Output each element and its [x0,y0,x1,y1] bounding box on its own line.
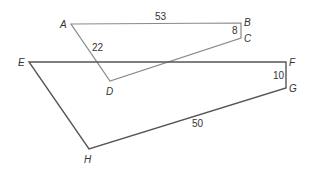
side-lengths: 53 8 22 10 50 [92,11,285,129]
side-length-gh: 50 [192,118,204,129]
vertex-label-h: H [84,154,92,165]
vertex-label-g: G [289,83,297,94]
vertex-label-f: F [289,57,296,68]
side-length-ab: 53 [155,11,167,22]
quadrilateral-efgh [29,62,286,149]
vertex-label-e: E [18,57,25,68]
vertex-label-a: A [59,19,67,30]
vertex-labels-abcd: A B C D [59,17,252,97]
side-length-bc: 8 [232,25,238,36]
vertex-label-b: B [244,17,251,28]
vertex-labels-efgh: E F G H [18,57,297,165]
diagram-canvas: A B C D E F G H 53 8 22 10 50 [0,0,316,169]
vertex-label-c: C [244,33,252,44]
vertex-label-d: D [106,86,113,97]
side-length-ad: 22 [92,42,104,53]
side-length-fg: 10 [273,70,285,81]
